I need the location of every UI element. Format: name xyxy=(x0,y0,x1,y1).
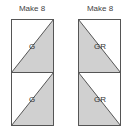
hst-block-top: GR xyxy=(78,19,120,72)
block-label: GR xyxy=(94,95,106,104)
hst-block-bottom: G xyxy=(11,72,53,125)
block-label: G xyxy=(29,95,35,104)
hst-block-bottom: GR xyxy=(78,72,120,125)
column-title: Make 8 xyxy=(78,4,121,13)
block-label: G xyxy=(29,42,35,51)
hst-block-top: G xyxy=(11,19,53,72)
column-title: Make 8 xyxy=(10,4,54,13)
block-label: GR xyxy=(94,42,106,51)
